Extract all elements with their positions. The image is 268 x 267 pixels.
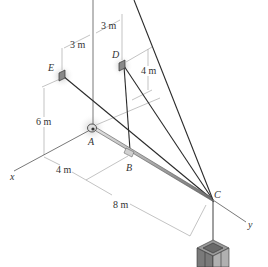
label-a: A [88, 137, 94, 147]
x-axis-line [14, 130, 90, 171]
cable-top-c [134, 0, 213, 200]
dim-ab: 4 m [56, 165, 71, 175]
dim-d-offset: 3 m [101, 21, 116, 31]
dim-e-offset: 3 m [70, 40, 85, 50]
cables [63, 0, 213, 200]
label-e: E [48, 63, 54, 73]
diagram-canvas [0, 0, 268, 267]
dim-d-height: 4 m [141, 66, 156, 76]
label-d: D [112, 50, 119, 60]
crate [197, 240, 229, 267]
dim-bc: 8 m [113, 200, 128, 210]
axis-label-x: x [10, 172, 14, 182]
label-c: C [214, 190, 221, 200]
cable-db [124, 66, 130, 150]
label-b: B [126, 163, 132, 173]
boom-ac [92, 125, 214, 202]
y-axis-line [213, 200, 246, 222]
dim-e-height: 6 m [36, 117, 51, 127]
axis-label-y: y [248, 220, 252, 230]
